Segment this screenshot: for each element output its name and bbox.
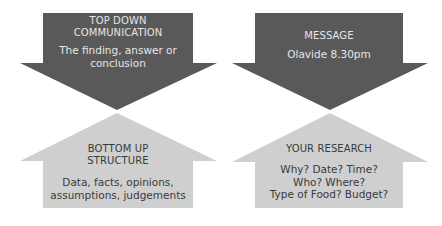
right-down-arrow xyxy=(232,13,428,110)
body-line: conclusion xyxy=(43,57,193,70)
body-line: Data, facts, opinions, xyxy=(43,176,193,189)
title-line: MESSAGE xyxy=(255,30,403,42)
message-title: MESSAGE xyxy=(255,30,403,42)
left-up-arrow-text: BOTTOM UP STRUCTURE Data, facts, opinion… xyxy=(43,143,193,201)
title-line: COMMUNICATION xyxy=(43,27,193,39)
research-title: YOUR RESEARCH xyxy=(255,143,403,155)
title-line: YOUR RESEARCH xyxy=(255,143,403,155)
body-line: Why? Date? Time? xyxy=(255,163,403,176)
right-down-arrow-text: MESSAGE Olavide 8.30pm xyxy=(255,30,403,61)
top-down-body: The finding, answer or conclusion xyxy=(43,44,193,69)
bottom-up-title: BOTTOM UP STRUCTURE xyxy=(43,143,193,167)
body-line: assumptions, judgements xyxy=(43,189,193,202)
body-line: Olavide 8.30pm xyxy=(255,48,403,61)
title-line: BOTTOM UP xyxy=(43,143,193,155)
body-line: The finding, answer or xyxy=(43,44,193,57)
bottom-up-body: Data, facts, opinions, assumptions, judg… xyxy=(43,176,193,201)
top-down-title: TOP DOWN COMMUNICATION xyxy=(43,15,193,39)
message-body: Olavide 8.30pm xyxy=(255,48,403,61)
body-line: Who? Where? xyxy=(255,176,403,189)
left-down-arrow-text: TOP DOWN COMMUNICATION The finding, answ… xyxy=(43,15,193,69)
body-line: Type of Food? Budget? xyxy=(255,188,403,201)
right-up-arrow-text: YOUR RESEARCH Why? Date? Time? Who? Wher… xyxy=(255,143,403,201)
title-line: STRUCTURE xyxy=(43,155,193,167)
title-line: TOP DOWN xyxy=(43,15,193,27)
research-body: Why? Date? Time? Who? Where? Type of Foo… xyxy=(255,163,403,201)
